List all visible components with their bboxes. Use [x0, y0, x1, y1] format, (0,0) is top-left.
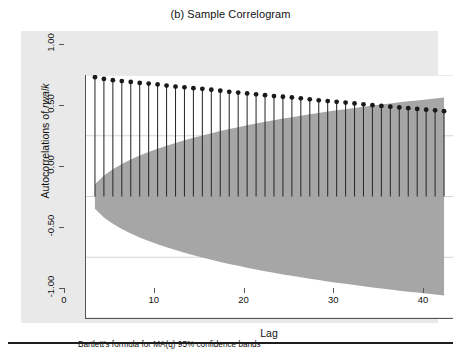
data-point-marker [200, 86, 205, 91]
data-point-marker [343, 100, 348, 105]
data-point-marker [236, 90, 241, 95]
figure-title: (b) Sample Correlogram [0, 8, 461, 20]
data-point-marker [316, 98, 321, 103]
data-point-marker [379, 104, 384, 109]
data-point-marker [325, 99, 330, 104]
data-point-marker [218, 88, 223, 93]
data-point-marker [182, 85, 187, 90]
graph-region: Autocorrelations of rwalk 1.000.500.00-0… [21, 31, 438, 323]
data-point-marker [227, 89, 232, 94]
data-point-marker [281, 94, 286, 99]
x-tick-mark [154, 288, 155, 293]
plot-region [85, 75, 453, 319]
data-point-marker [173, 84, 178, 89]
data-point-marker [191, 86, 196, 91]
data-point-marker [110, 78, 115, 83]
data-point-marker [209, 87, 214, 92]
x-tick-mark [244, 288, 245, 293]
data-point-marker [289, 95, 294, 100]
data-point-marker [254, 92, 259, 97]
x-tick-label: 40 [411, 294, 435, 305]
x-tick-label: 10 [142, 294, 166, 305]
y-tick-mark [59, 44, 64, 45]
data-point-marker [245, 91, 250, 96]
data-point-marker [164, 83, 169, 88]
x-tick-mark [423, 288, 424, 293]
bottom-rule [8, 342, 453, 344]
y-tick-label: -0.50 [45, 209, 56, 243]
data-point-marker [352, 101, 357, 106]
data-point-marker [307, 97, 312, 102]
y-tick-mark [59, 105, 64, 106]
data-point-marker [119, 79, 124, 84]
y-tick-mark [59, 227, 64, 228]
x-tick-label: 20 [232, 294, 256, 305]
data-point-marker [102, 76, 107, 81]
data-point-marker [93, 75, 98, 80]
x-axis-title: Lag [85, 327, 453, 339]
data-point-marker [397, 105, 402, 110]
y-tick-label: 1.00 [45, 26, 56, 60]
x-tick-mark [64, 288, 65, 293]
data-point-marker [137, 81, 142, 86]
correlogram-plot [86, 75, 453, 318]
data-point-marker [433, 108, 438, 113]
y-tick-label: 0.50 [45, 87, 56, 121]
data-point-marker [388, 104, 393, 109]
data-point-marker [298, 96, 303, 101]
data-point-marker [361, 102, 366, 107]
data-point-marker [272, 94, 277, 99]
correlogram-figure: (b) Sample Correlogram Autocorrelations … [0, 0, 461, 356]
x-tick-mark [333, 288, 334, 293]
data-point-marker [334, 99, 339, 104]
data-point-marker [442, 109, 447, 114]
confidence-band-area [95, 97, 444, 295]
data-point-marker [415, 107, 420, 112]
data-point-marker [155, 82, 160, 87]
y-tick-label: 0.00 [45, 148, 56, 182]
x-tick-label: 0 [52, 294, 76, 305]
x-tick-label: 30 [321, 294, 345, 305]
data-point-marker [406, 106, 411, 111]
data-point-marker [370, 103, 375, 108]
data-point-marker [128, 80, 133, 85]
data-point-marker [424, 107, 429, 112]
y-tick-mark [59, 166, 64, 167]
data-point-marker [146, 81, 151, 86]
data-point-marker [263, 93, 268, 98]
